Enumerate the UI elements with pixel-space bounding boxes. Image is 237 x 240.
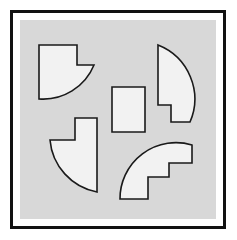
screenshot-root <box>0 0 237 240</box>
shape-center-rectangle[interactable] <box>112 87 145 132</box>
